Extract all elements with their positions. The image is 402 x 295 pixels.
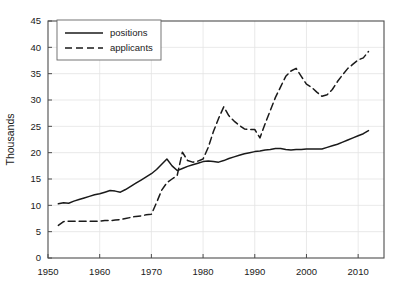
- line-chart: 051015202530354045 195019601970198019902…: [0, 0, 402, 295]
- legend-label-applicants: applicants: [110, 42, 153, 53]
- y-tick-label: 5: [36, 226, 41, 237]
- chart-container: 051015202530354045 195019601970198019902…: [0, 0, 402, 295]
- x-tick-label: 2010: [348, 266, 369, 277]
- chart-legend: positionsapplicants: [57, 20, 161, 60]
- y-tick-label: 40: [30, 42, 41, 53]
- legend-box: [57, 20, 161, 60]
- y-tick-labels: 051015202530354045: [30, 15, 41, 263]
- series-group: [58, 52, 368, 226]
- y-tick-label: 10: [30, 200, 41, 211]
- y-tick-label: 15: [30, 173, 41, 184]
- x-tick-label: 1970: [141, 266, 162, 277]
- y-tick-label: 20: [30, 147, 41, 158]
- y-axis-title: Thousands: [4, 114, 16, 166]
- x-tick-label: 2000: [296, 266, 317, 277]
- x-tick-label: 1950: [37, 266, 58, 277]
- x-tick-label: 1960: [89, 266, 110, 277]
- y-tick-label: 45: [30, 15, 41, 26]
- x-tick-labels: 1950196019701980199020002010: [37, 266, 368, 277]
- legend-label-positions: positions: [110, 27, 148, 38]
- x-tick-label: 1980: [193, 266, 214, 277]
- y-tick-label: 30: [30, 94, 41, 105]
- series-line-positions: [58, 131, 368, 204]
- x-tick-label: 1990: [244, 266, 265, 277]
- y-tick-label: 0: [36, 252, 41, 263]
- y-tick-label: 25: [30, 121, 41, 132]
- y-tick-label: 35: [30, 68, 41, 79]
- series-line-applicants: [58, 52, 368, 226]
